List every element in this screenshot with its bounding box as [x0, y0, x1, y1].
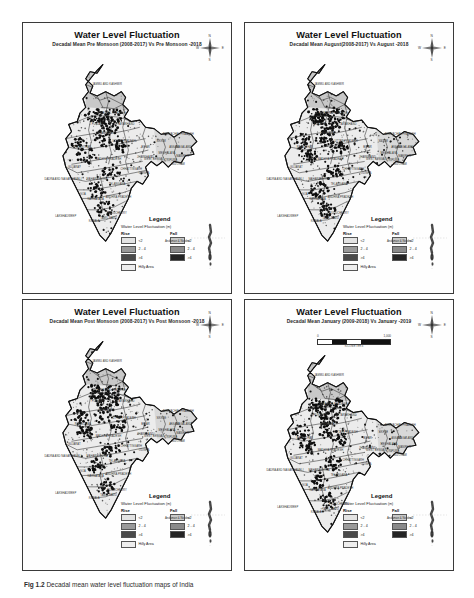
legend-row-rise: >4 [343, 531, 383, 538]
compass-east-label: E [222, 323, 224, 327]
legend-label-hilly: Hilly Area [139, 542, 154, 546]
compass-west-label: W [196, 46, 199, 50]
caption-label: Fig 1.2 [24, 581, 45, 588]
compass-east-label: E [444, 46, 446, 50]
legend-swatch-rise [121, 246, 136, 253]
legend-swatch-rise [121, 254, 136, 261]
legend-title: Legend [371, 216, 449, 222]
scale-max-label: 1,000 [383, 334, 391, 338]
compass-east-label: E [222, 46, 224, 50]
map-panel-post-monsoon[interactable]: Water Level FluctuationDecadal Mean Post… [22, 299, 232, 571]
legend-label-rise: >4 [139, 256, 143, 260]
state-label: KERALA [311, 511, 322, 514]
legend-swatch-fall [392, 523, 407, 530]
legend-column-rise: Rise<22 - 4>4 [121, 508, 161, 540]
state-label: ODISHA [361, 462, 372, 465]
state-label: UTTARAKHAND [114, 123, 135, 126]
legend-header-rise: Rise [121, 508, 161, 513]
state-label: ODISHA [139, 448, 150, 451]
state-label: MAHARASHTRA [309, 177, 330, 180]
state-label: SIKKIM [378, 431, 387, 434]
state-label: DADRA AND NAGAR HAVELI [44, 177, 81, 180]
state-label: HIMACHAL PRADESH [97, 111, 125, 114]
state-label: TELANGANA [109, 183, 126, 186]
state-label: JHARKHAND [359, 447, 376, 450]
map-panel-pre-monsoon[interactable]: Water Level FluctuationDecadal Mean Pre … [22, 22, 232, 294]
state-label: KARNATAKA [310, 197, 326, 200]
map-panel-august[interactable]: Water Level FluctuationDecadal Mean Augu… [244, 22, 454, 294]
state-label: GUJARAT [290, 457, 303, 460]
state-label: MEGHALAYA [158, 151, 175, 154]
legend-label-rise: <2 [361, 516, 365, 520]
state-label: HARYANA [99, 408, 112, 411]
legend-label-rise: >4 [361, 533, 365, 537]
legend-swatch-fall [170, 523, 185, 530]
state-label: GUJARAT [290, 166, 303, 169]
legend-label-rise: 2 - 4 [361, 524, 368, 528]
state-label: SIKKIM [378, 140, 387, 143]
legend-swatch-rise [343, 254, 358, 261]
state-label: BIHAR [141, 146, 149, 149]
state-label: TAMIL NADU [100, 217, 116, 220]
state-label: MANIPUR [398, 445, 411, 448]
state-label: MADHYA PRADESH [318, 448, 344, 451]
legend-swatch-fall [170, 531, 185, 538]
compass-north-label: N [209, 311, 211, 315]
state-label: HIMACHAL PRADESH [319, 111, 347, 114]
map-panel-grid: Water Level FluctuationDecadal Mean Pre … [22, 22, 454, 571]
state-label: MADHYA PRADESH [318, 157, 344, 160]
andaman-nicobar-label: Andaman & Nicobar [165, 239, 190, 243]
state-label: MIZORAM [394, 163, 407, 166]
legend-row-rise: 2 - 4 [121, 523, 161, 530]
legend-swatch-rise [121, 531, 136, 538]
state-label: PUNJAB [314, 414, 325, 417]
state-label: DADRA AND NAGAR HAVELI [266, 468, 303, 471]
state-label: ANDHRA PRADESH [106, 473, 132, 476]
state-label: TRIPURA [165, 159, 177, 162]
andaman-nicobar-label: Andaman & Nicobar [165, 516, 190, 520]
legend-label-hilly: Hilly Area [139, 265, 154, 269]
state-label: KARNATAKA [88, 474, 104, 477]
state-label: KERALA [311, 220, 322, 223]
state-label: DADRA AND NAGAR HAVELI [44, 454, 81, 457]
state-label: MADHYA PRADESH [96, 157, 122, 160]
state-label: HARYANA [321, 131, 334, 134]
state-label: JAMMU AND KASHMIR [92, 360, 122, 363]
state-label: KARNATAKA [310, 488, 326, 491]
state-label: KARNATAKA [88, 197, 104, 200]
state-label: TELANGANA [331, 474, 348, 477]
legend-row-rise: <2 [121, 237, 161, 244]
state-label: CHHATTISGARH [342, 458, 364, 461]
legend-label-rise: <2 [139, 516, 143, 520]
state-label: PUNJAB [314, 123, 325, 126]
state-label: MEGHALAYA [380, 442, 397, 445]
state-label: JAMMU AND KASHMIR [314, 83, 344, 86]
state-label: GOA [80, 193, 86, 196]
state-label: HARYANA [321, 422, 334, 425]
state-label: DADRA AND NAGAR HAVELI [266, 177, 303, 180]
state-label: UTTARAKHAND [336, 414, 357, 417]
compass-north-label: N [209, 34, 211, 38]
state-label: SIKKIM [156, 140, 165, 143]
state-label: NAGALAND [398, 437, 413, 440]
state-label: TRIPURA [387, 450, 399, 453]
state-label: CHHATTISGARH [120, 444, 142, 447]
map-panel-january[interactable]: Water Level FluctuationDecadal Mean Janu… [244, 299, 454, 571]
legend-swatch-rise [121, 237, 136, 244]
legend-column-rise: Rise<22 - 4>4 [121, 231, 161, 263]
state-label: MANIPUR [176, 431, 189, 434]
state-label: JHARKHAND [137, 433, 154, 436]
state-label: UTTARAKHAND [114, 400, 135, 403]
state-label: MAHARASHTRA [87, 454, 108, 457]
legend-label-rise: 2 - 4 [139, 247, 146, 251]
state-label: LAKSHADWEEP [277, 214, 298, 217]
state-label: MIZORAM [172, 163, 185, 166]
legend-row-rise: 2 - 4 [343, 246, 383, 253]
legend-swatch-rise [121, 514, 136, 521]
state-label: PUNJAB [92, 400, 103, 403]
legend-swatch-rise [343, 531, 358, 538]
state-label: NAGALAND [176, 423, 191, 426]
state-label: UTTAR PRADESH [335, 431, 358, 434]
legend-header-rise: Rise [343, 508, 383, 513]
legend-label-rise: 2 - 4 [361, 247, 368, 251]
